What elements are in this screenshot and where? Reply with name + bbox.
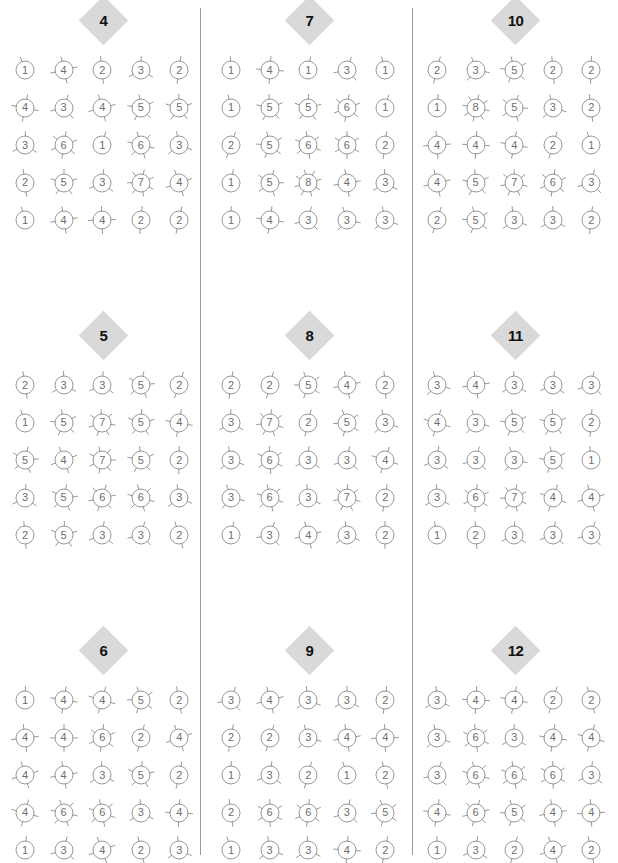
sunburst-glyph: 3 — [369, 204, 401, 236]
sunburst-glyph: 3 — [292, 444, 324, 476]
glyph-cell: 3 — [328, 202, 367, 240]
sunburst-glyph: 1 — [215, 759, 247, 791]
sunburst-number: 2 — [575, 54, 607, 86]
glyph-cell: 6 — [534, 165, 573, 203]
sunburst-number: 1 — [575, 444, 607, 476]
glyph-cell: 4 — [534, 480, 573, 518]
glyph-cell: 4 — [83, 832, 122, 863]
glyph-cell: 5 — [366, 795, 405, 833]
sunburst-glyph: 6 — [86, 482, 118, 514]
glyph-cell: 5 — [251, 127, 290, 165]
glyph-cell: 3 — [83, 367, 122, 405]
sunburst-glyph: 2 — [537, 54, 569, 86]
glyph-row: 34333 — [412, 367, 618, 405]
glyph-cell: 3 — [495, 202, 534, 240]
panel-number-label: 11 — [498, 318, 533, 353]
sunburst-glyph: 6 — [537, 167, 569, 199]
sunburst-glyph: 3 — [125, 54, 157, 86]
sunburst-glyph: 4 — [48, 54, 80, 86]
glyph-cell: 1 — [572, 127, 611, 165]
glyph-cell: 7 — [83, 442, 122, 480]
glyph-cell: 3 — [289, 202, 328, 240]
sunburst-number: 4 — [9, 722, 41, 754]
glyph-cell: 2 — [6, 165, 45, 203]
sunburst-glyph: 3 — [292, 834, 324, 863]
sunburst-number: 2 — [421, 204, 453, 236]
sunburst-number: 1 — [215, 92, 247, 124]
sunburst-number: 7 — [498, 482, 530, 514]
sunburst-number: 1 — [215, 167, 247, 199]
sunburst-number: 3 — [163, 834, 195, 863]
glyph-cell: 3 — [212, 405, 251, 443]
sunburst-glyph: 5 — [254, 92, 286, 124]
sunburst-glyph: 5 — [125, 444, 157, 476]
glyph-cell: 3 — [251, 832, 290, 863]
panel-header: 12 — [412, 630, 618, 682]
glyph-cell: 3 — [534, 517, 573, 555]
sunburst-glyph: 4 — [163, 407, 195, 439]
glyph-cell: 2 — [534, 127, 573, 165]
glyph-grid: 2254237253363343637213432 — [206, 367, 412, 555]
sunburst-number: 5 — [537, 407, 569, 439]
sunburst-number: 3 — [460, 834, 492, 863]
sunburst-glyph: 4 — [537, 834, 569, 863]
glyph-cell: 4 — [160, 405, 199, 443]
glyph-cell: 5 — [6, 442, 45, 480]
sunburst-number: 1 — [9, 204, 41, 236]
sunburst-number: 2 — [537, 129, 569, 161]
glyph-cell: 3 — [572, 757, 611, 795]
glyph-cell: 2 — [418, 202, 457, 240]
sunburst-glyph: 5 — [125, 369, 157, 401]
sunburst-glyph: 4 — [537, 482, 569, 514]
glyph-cell: 1 — [366, 52, 405, 90]
glyph-row: 13212 — [206, 757, 412, 795]
glyph-row: 25332 — [0, 517, 206, 555]
panel-number-label: 6 — [86, 633, 121, 668]
sunburst-glyph: 4 — [48, 444, 80, 476]
sunburst-number: 4 — [254, 54, 286, 86]
sunburst-number: 3 — [498, 369, 530, 401]
panel-header: 11 — [412, 315, 618, 367]
sunburst-glyph: 4 — [9, 722, 41, 754]
glyph-cell: 6 — [495, 757, 534, 795]
sunburst-number: 7 — [125, 167, 157, 199]
glyph-cell: 6 — [251, 795, 290, 833]
sunburst-number: 2 — [86, 54, 118, 86]
sunburst-glyph: 2 — [421, 54, 453, 86]
sunburst-glyph: 6 — [254, 482, 286, 514]
sunburst-number: 6 — [331, 92, 363, 124]
sunburst-number: 5 — [292, 369, 324, 401]
number-grid-panel: 71413115561256621584314333 — [206, 0, 412, 240]
glyph-grid: 3442236344366634654413242 — [412, 682, 618, 863]
glyph-row: 35663 — [0, 480, 206, 518]
glyph-cell: 6 — [289, 795, 328, 833]
sunburst-number: 4 — [163, 797, 195, 829]
sunburst-glyph: 7 — [498, 482, 530, 514]
sunburst-glyph: 3 — [292, 482, 324, 514]
glyph-cell: 7 — [122, 165, 161, 203]
sunburst-glyph: 3 — [163, 834, 195, 863]
sunburst-glyph: 2 — [9, 519, 41, 551]
glyph-cell: 3 — [418, 682, 457, 720]
glyph-cell: 5 — [289, 367, 328, 405]
sunburst-number: 5 — [125, 407, 157, 439]
sunburst-glyph: 4 — [48, 722, 80, 754]
glyph-grid: 2335215754547523566325332 — [0, 367, 206, 555]
glyph-cell: 4 — [328, 720, 367, 758]
sunburst-glyph: 2 — [163, 369, 195, 401]
glyph-cell: 1 — [83, 127, 122, 165]
sunburst-number: 4 — [460, 684, 492, 716]
sunburst-glyph: 2 — [125, 204, 157, 236]
glyph-cell: 5 — [534, 442, 573, 480]
sunburst-glyph: 1 — [369, 92, 401, 124]
glyph-row: 34422 — [412, 682, 618, 720]
sunburst-number: 3 — [575, 369, 607, 401]
sunburst-glyph: 2 — [254, 369, 286, 401]
glyph-cell: 4 — [251, 52, 290, 90]
sunburst-glyph: 3 — [163, 129, 195, 161]
glyph-row: 25374 — [0, 165, 206, 203]
sunburst-number: 4 — [369, 722, 401, 754]
sunburst-number: 6 — [537, 759, 569, 791]
sunburst-number: 5 — [292, 92, 324, 124]
sunburst-glyph: 3 — [331, 797, 363, 829]
